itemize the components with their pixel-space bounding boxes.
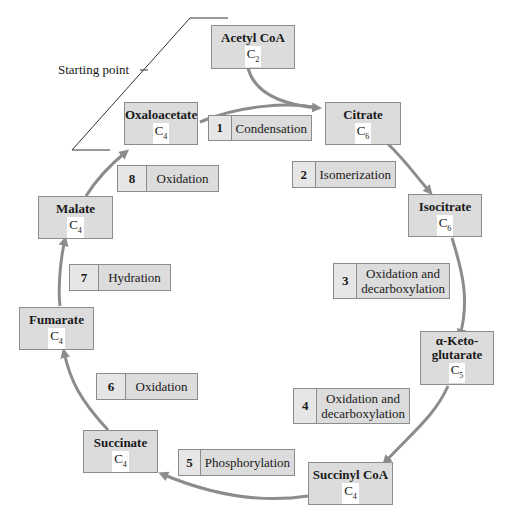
molecule-acetyl-coa: Acetyl CoA C2 — [211, 25, 295, 69]
step-label: Oxidation — [126, 374, 197, 399]
molecule-name: Succinyl CoA — [309, 467, 392, 482]
step-label: Phosphorylation — [201, 450, 294, 475]
molecule-isocitrate: Isocitrate C6 — [408, 194, 482, 237]
molecule-oxaloacetate: Oxaloacetate C4 — [124, 102, 198, 145]
step-label: Oxidation — [147, 166, 218, 191]
step-number: 2 — [293, 162, 316, 187]
molecule-name: Acetyl CoA — [212, 30, 294, 45]
molecule-name: α-Keto-glutarate — [421, 334, 493, 362]
molecule-name: Oxaloacetate — [125, 107, 197, 122]
step-number: 1 — [209, 116, 232, 140]
step-6: 6 Oxidation — [96, 373, 198, 400]
step-label: Hydration — [99, 265, 170, 290]
molecule-name: Fumarate — [20, 312, 93, 327]
starting-point-label: Starting point — [58, 62, 129, 78]
step-number: 6 — [97, 374, 126, 399]
step-7: 7 Hydration — [69, 264, 171, 291]
step-1: 1 Condensation — [208, 115, 312, 141]
step-number: 3 — [334, 264, 357, 298]
step-number: 8 — [118, 166, 147, 191]
step-5: 5 Phosphorylation — [178, 449, 295, 476]
step-2: 2 Isomerization — [292, 161, 396, 188]
step-number: 5 — [179, 450, 201, 475]
molecule-name: Succinate — [84, 435, 157, 450]
molecule-name: Citrate — [326, 107, 400, 122]
step-label: Oxidation and decarboxylation — [317, 389, 409, 423]
citric-acid-cycle-diagram: Starting point Acetyl CoA C2 Citrate C6 … — [0, 0, 508, 525]
molecule-name: Malate — [39, 201, 112, 216]
molecule-succinate: Succinate C4 — [83, 430, 158, 473]
step-label: Condensation — [232, 116, 312, 140]
molecule-malate: Malate C4 — [38, 196, 113, 239]
step-number: 7 — [70, 265, 99, 290]
molecule-name: Isocitrate — [409, 199, 481, 214]
molecule-succinyl-coa: Succinyl CoA C4 — [308, 462, 393, 505]
molecule-citrate: Citrate C6 — [325, 102, 401, 145]
step-4: 4 Oxidation and decarboxylation — [293, 388, 410, 424]
molecule-fumarate: Fumarate C4 — [19, 307, 94, 350]
step-3: 3 Oxidation and decarboxylation — [333, 263, 450, 299]
step-label: Isomerization — [316, 162, 395, 187]
step-8: 8 Oxidation — [117, 165, 219, 192]
step-label: Oxidation and decarboxylation — [357, 264, 449, 298]
step-number: 4 — [294, 389, 317, 423]
molecule-alpha-ketoglutarate: α-Keto-glutarate C5 — [420, 331, 494, 385]
